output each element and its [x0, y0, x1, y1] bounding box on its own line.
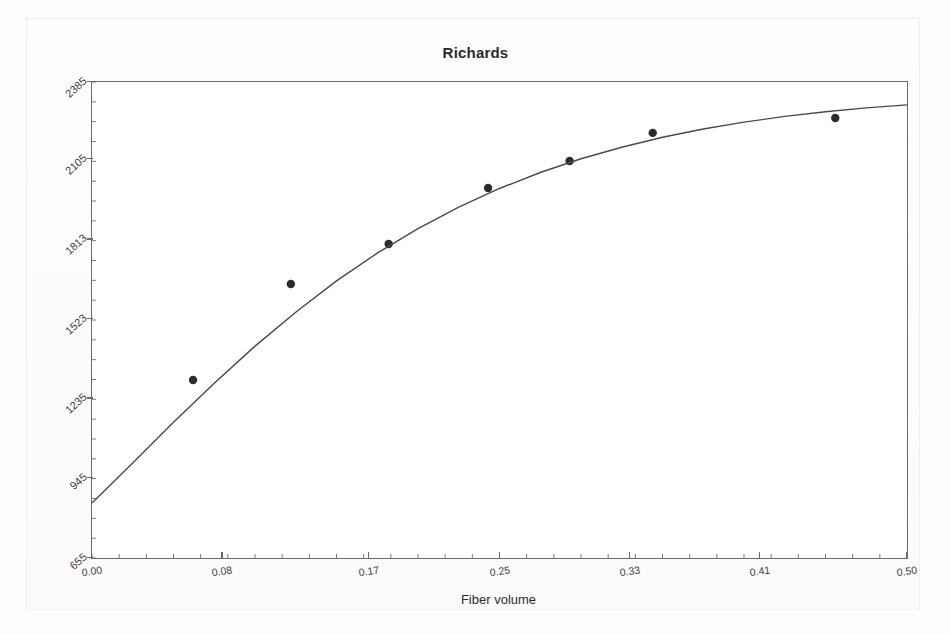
y-tick-mark [87, 318, 93, 319]
x-tick-mark [221, 552, 222, 558]
fitted-curve [92, 105, 907, 503]
data-point [831, 114, 839, 122]
chart-title: Richards [0, 44, 951, 61]
x-tick-mark [91, 552, 92, 558]
data-point [287, 280, 295, 288]
x-tick-mark [906, 552, 907, 558]
x-tick-mark [629, 552, 630, 558]
plot-canvas [92, 82, 907, 558]
x-tick-mark [368, 552, 369, 558]
chart-figure: Richards 23852105181315231235945655 0.00… [0, 0, 951, 635]
plot-area [91, 81, 908, 559]
y-tick-mark [87, 81, 93, 82]
y-tick-mark [87, 397, 93, 398]
x-tick-mark [499, 552, 500, 558]
data-point [484, 184, 492, 192]
x-tick-mark [759, 552, 760, 558]
y-tick-mark [87, 477, 93, 478]
y-tick-mark [87, 238, 93, 239]
data-point [189, 376, 197, 384]
data-point [649, 129, 657, 137]
y-tick-mark [87, 158, 93, 159]
x-axis-label: Fiber volume [91, 592, 906, 607]
